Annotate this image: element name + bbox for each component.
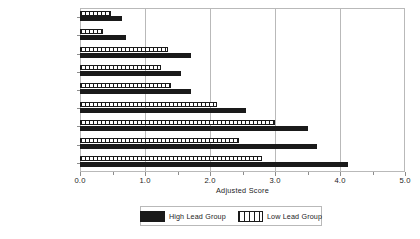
bar-low-lead-somatic-complaint — [80, 29, 103, 34]
chart-legend: High Lead Group Low Lead Group — [140, 206, 322, 226]
x-axis-minor-tick — [178, 172, 179, 175]
legend-entry-high-lead-group: High Lead Group — [140, 211, 226, 222]
x-axis-ticklabel-2.0: 2.0 — [190, 176, 230, 185]
bar-rows: thought problemssomatic complaintwithdra… — [80, 8, 405, 172]
bar-high-lead-attention-problems — [80, 126, 308, 131]
bar-high-lead-aggressive-behavior — [80, 144, 317, 149]
x-axis-minor-tick — [243, 172, 244, 175]
bar-group-aggressive-behavior: aggressive behavior — [80, 136, 405, 154]
bar-group-thought-problems: thought problems — [80, 8, 405, 26]
x-axis-title: Adjusted Score — [80, 186, 405, 195]
vertical-hatch-swatch-icon — [238, 211, 263, 222]
bar-low-lead-social-problems — [80, 83, 171, 88]
bar-high-lead-withdrawn — [80, 53, 191, 58]
x-axis-minor-tick — [373, 172, 374, 175]
bar-group-externalizing: externalizing — [80, 154, 405, 172]
bar-chart: thought problemssomatic complaintwithdra… — [0, 0, 420, 239]
bar-low-lead-internalizing — [80, 102, 217, 107]
bar-high-lead-delinquent-behavior — [80, 71, 181, 76]
legend-label-high-lead-group: High Lead Group — [169, 212, 226, 221]
legend-entry-low-lead-group: Low Lead Group — [238, 211, 322, 222]
bar-group-withdrawn: withdrawn — [80, 44, 405, 62]
bar-high-lead-externalizing — [80, 162, 348, 167]
bar-high-lead-thought-problems — [80, 16, 122, 21]
bar-low-lead-attention-problems — [80, 120, 275, 125]
bar-low-lead-aggressive-behavior — [80, 138, 239, 143]
bar-high-lead-internalizing — [80, 108, 246, 113]
x-axis-ticklabel-4.0: 4.0 — [320, 176, 360, 185]
solid-black-swatch-icon — [140, 211, 165, 222]
x-axis-minor-tick — [308, 172, 309, 175]
bar-low-lead-withdrawn — [80, 47, 168, 52]
x-axis-ticklabel-1.0: 1.0 — [125, 176, 165, 185]
x-axis-minor-tick — [113, 172, 114, 175]
bar-group-somatic-complaint: somatic complaint — [80, 26, 405, 44]
bar-group-attention-problems: attention problems — [80, 117, 405, 135]
bar-high-lead-social-problems — [80, 89, 191, 94]
legend-label-low-lead-group: Low Lead Group — [267, 212, 322, 221]
bar-group-internalizing: internalizing — [80, 99, 405, 117]
x-axis-ticklabel-5.0: 5.0 — [385, 176, 420, 185]
x-axis-ticklabel-0.0: 0.0 — [60, 176, 100, 185]
bar-group-delinquent-behavior: delinquent behavior — [80, 63, 405, 81]
bar-low-lead-externalizing — [80, 156, 262, 161]
bar-group-social-problems: social problems — [80, 81, 405, 99]
x-axis-ticklabel-3.0: 3.0 — [255, 176, 295, 185]
bar-high-lead-somatic-complaint — [80, 35, 126, 40]
bar-low-lead-delinquent-behavior — [80, 65, 161, 70]
bar-low-lead-thought-problems — [80, 11, 111, 16]
